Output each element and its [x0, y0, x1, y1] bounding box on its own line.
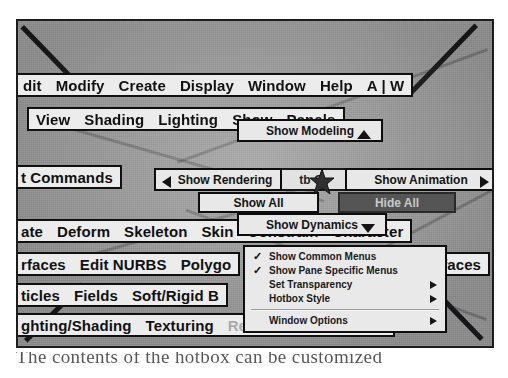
radial-show-all[interactable]: Show All — [198, 192, 319, 213]
radial-show-rendering-label: Show Rendering — [164, 173, 273, 187]
menu-item-modify[interactable]: Modify — [49, 77, 112, 94]
menu-item-window[interactable]: Window — [241, 77, 313, 94]
menu-item-edit-nurbs[interactable]: Edit NURBS — [73, 256, 174, 273]
menu-item-soft-rigid[interactable]: Soft/Rigid B — [125, 287, 226, 304]
menu-item-edit[interactable]: dit — [16, 77, 49, 94]
menu-item-show-common-menus-label: Show Common Menus — [269, 251, 376, 262]
menu-item-set-transparency-label: Set Transparency — [269, 279, 352, 290]
dynamics-row[interactable]: ticles Fields Soft/Rigid B — [16, 283, 228, 307]
submenu-arrow-icon — [430, 295, 437, 303]
radial-show-animation[interactable]: Show Animation — [345, 168, 494, 191]
menu-item-deform[interactable]: Deform — [50, 223, 117, 240]
radial-show-dynamics[interactable]: Show Dynamics — [237, 213, 387, 236]
menu-item-help[interactable]: Help — [313, 77, 360, 94]
menu-item-shading[interactable]: Shading — [77, 111, 151, 128]
figure-caption: The contents of the hotbox can be custom… — [16, 352, 490, 378]
triangle-left-icon — [162, 176, 171, 191]
menu-item-aw[interactable]: A | W — [360, 77, 411, 94]
modeling-row[interactable]: rfaces Edit NURBS Polygo — [16, 252, 240, 276]
check-icon: ✓ — [253, 249, 262, 263]
menu-item-texturing[interactable]: Texturing — [139, 317, 221, 334]
triangle-down-icon — [361, 222, 375, 236]
menu-item-set-transparency[interactable]: Set Transparency — [245, 278, 445, 292]
menu-item-lighting[interactable]: Lighting — [151, 111, 225, 128]
menu-separator — [251, 309, 439, 311]
radial-show-rendering[interactable]: Show Rendering — [154, 168, 282, 191]
figure-caption-text: The contents of the hotbox can be custom… — [16, 352, 382, 367]
menu-item-show-pane-specific-menus[interactable]: ✓ Show Pane Specific Menus — [245, 264, 445, 278]
menu-item-show-pane-specific-menus-label: Show Pane Specific Menus — [269, 265, 398, 276]
screenshot-root: dit Modify Create Display Window Help A … — [0, 0, 508, 378]
hotbox-options-menu[interactable]: ✓ Show Common Menus ✓ Show Pane Specific… — [243, 245, 447, 333]
menu-item-view[interactable]: View — [29, 111, 77, 128]
submenu-arrow-icon — [430, 281, 437, 289]
radial-show-modeling[interactable]: Show Modeling — [237, 119, 383, 142]
menu-item-lighting-shading[interactable]: ghting/Shading — [16, 317, 139, 334]
menu-item-hotbox-style[interactable]: Hotbox Style — [245, 292, 445, 306]
menu-item-particles[interactable]: ticles — [16, 287, 67, 304]
menu-item-window-options[interactable]: Window Options — [245, 314, 445, 328]
menu-item-animate[interactable]: ate — [16, 223, 50, 240]
hotbox-center-star-icon — [309, 169, 335, 195]
menu-item-commands[interactable]: t Commands — [16, 169, 120, 186]
menu-item-skin[interactable]: Skin — [194, 223, 240, 240]
menu-item-window-options-label: Window Options — [269, 315, 348, 326]
menu-item-polygons[interactable]: Polygo — [174, 256, 239, 273]
menu-item-hotbox-style-label: Hotbox Style — [269, 293, 330, 304]
menu-item-display[interactable]: Display — [173, 77, 241, 94]
radial-show-animation-label: Show Animation — [374, 173, 468, 187]
radial-show-dynamics-label: Show Dynamics — [266, 218, 358, 232]
menu-item-skeleton[interactable]: Skeleton — [117, 223, 194, 240]
hotbox-zone-line-ne — [408, 24, 478, 97]
submenu-arrow-icon — [430, 317, 437, 325]
figure-frame: dit Modify Create Display Window Help A … — [16, 19, 494, 348]
radial-hide-all[interactable]: Hide All — [338, 192, 456, 213]
commands-row[interactable]: t Commands — [16, 165, 122, 189]
check-icon: ✓ — [253, 263, 262, 277]
menu-item-surfaces[interactable]: rfaces — [16, 256, 73, 273]
triangle-up-icon — [357, 128, 371, 142]
menu-item-create[interactable]: Create — [112, 77, 173, 94]
radial-show-modeling-label: Show Modeling — [266, 124, 354, 138]
radial-hide-all-label: Hide All — [375, 196, 419, 210]
main-menu-row[interactable]: dit Modify Create Display Window Help A … — [16, 73, 413, 97]
radial-show-all-label: Show All — [233, 196, 283, 210]
menu-item-show-common-menus[interactable]: ✓ Show Common Menus — [245, 250, 445, 264]
triangle-right-icon — [480, 176, 489, 191]
menu-item-fields[interactable]: Fields — [67, 287, 125, 304]
